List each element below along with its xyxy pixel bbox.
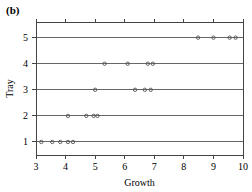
x-tick-label-9: 9 (211, 161, 216, 172)
x-tick-label-10: 10 (238, 161, 248, 172)
y-tick-label-2: 2 (23, 110, 28, 121)
x-tick-label-8: 8 (181, 161, 186, 172)
y-tick-label-1: 1 (23, 136, 28, 147)
x-axis-title: Growth (124, 177, 155, 188)
x-tick-label-7: 7 (152, 161, 157, 172)
scatter-chart: 34567891012345GrowthTray (0, 0, 252, 192)
y-tick-label-3: 3 (23, 84, 28, 95)
panel-label: (b) (6, 4, 19, 16)
x-tick-label-4: 4 (63, 161, 68, 172)
y-axis-title: Tray (4, 79, 15, 98)
x-tick-label-5: 5 (93, 161, 98, 172)
y-tick-label-4: 4 (23, 58, 28, 69)
x-tick-label-3: 3 (34, 161, 39, 172)
y-tick-label-5: 5 (23, 32, 28, 43)
x-tick-label-6: 6 (122, 161, 127, 172)
figure-panel: (b) 34567891012345GrowthTray (0, 0, 252, 192)
